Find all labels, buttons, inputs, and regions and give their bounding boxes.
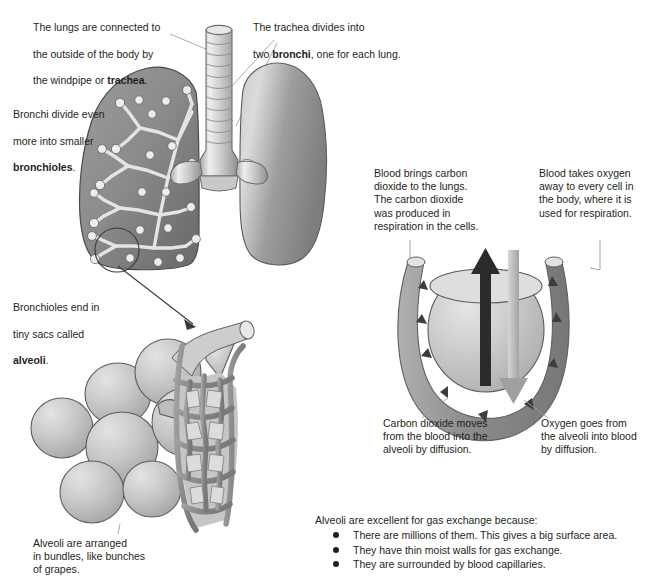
caption-bronchi: The trachea divides into two bronchi, on… (253, 8, 443, 61)
caption-co2-diffusion: Carbon dioxide moves from the blood into… (383, 417, 533, 457)
caption-grapes: Alveoli are arranged in bundles, like bu… (33, 537, 193, 577)
list-item: There are millions of them. This gives a… (315, 528, 650, 543)
caption-alveoli-line3-post: . (46, 354, 49, 366)
gas-exchange-brackets (410, 240, 600, 270)
gas-exchange-bullet-list: There are millions of them. This gives a… (315, 528, 650, 572)
caption-bronchioles-term: bronchioles (13, 161, 73, 173)
caption-alveoli-term: alveoli (13, 354, 46, 366)
caption-bronchioles-line2: more into smaller (13, 135, 94, 147)
caption-alveoli-line2: tiny sacs called (13, 328, 84, 340)
trachea-tube (200, 25, 238, 176)
caption-bronchi-line2-post: , one for each lung. (311, 48, 401, 60)
grapes-leader-line (118, 524, 120, 534)
list-item: They have thin moist walls for gas excha… (315, 543, 650, 558)
caption-bronchioles-line1: Bronchi divide even (13, 108, 105, 120)
caption-blood-brings-co2: Blood brings carbon dioxide to the lungs… (374, 167, 509, 233)
capillary-network (172, 319, 256, 530)
caption-trachea-line3-post: . (145, 74, 148, 86)
bullet-dot-icon (333, 561, 339, 567)
caption-trachea: The lungs are connected to the outside o… (33, 8, 193, 87)
caption-blood-takes-o2: Blood takes oxygen away to every cell in… (539, 167, 652, 220)
caption-bronchi-line2-pre: two (253, 48, 272, 60)
gas-exchange-list: Alveoli are excellent for gas exchange b… (315, 513, 650, 572)
bullet-dot-icon (333, 547, 339, 553)
list-item-text: They have thin moist walls for gas excha… (353, 544, 563, 556)
list-item-text: There are millions of them. This gives a… (353, 529, 617, 541)
list-item-text: They are surrounded by blood capillaries… (353, 558, 546, 570)
alveolus-capillary-loop (398, 240, 600, 441)
caption-trachea-line3-pre: the windpipe or (33, 74, 107, 86)
caption-trachea-line1: The lungs are connected to (33, 21, 160, 33)
caption-bronchi-term: bronchi (272, 48, 311, 60)
caption-o2-diffusion: Oxygen goes from the alveoli into blood … (541, 417, 652, 457)
caption-bronchi-line1: The trachea divides into (253, 21, 364, 33)
caption-bronchioles: Bronchi divide even more into smaller br… (13, 95, 133, 174)
caption-trachea-term: trachea (107, 74, 144, 86)
gas-exchange-list-lead: Alveoli are excellent for gas exchange b… (315, 513, 650, 527)
list-item: They are surrounded by blood capillaries… (315, 557, 650, 572)
caption-trachea-line2: the outside of the body by (33, 48, 153, 60)
bullet-dot-icon (333, 532, 339, 538)
caption-bronchioles-line3-post: . (73, 161, 76, 173)
caption-alveoli-line1: Bronchioles end in (13, 301, 99, 313)
caption-alveoli-sacs: Bronchioles end in tiny sacs called alve… (13, 288, 133, 367)
